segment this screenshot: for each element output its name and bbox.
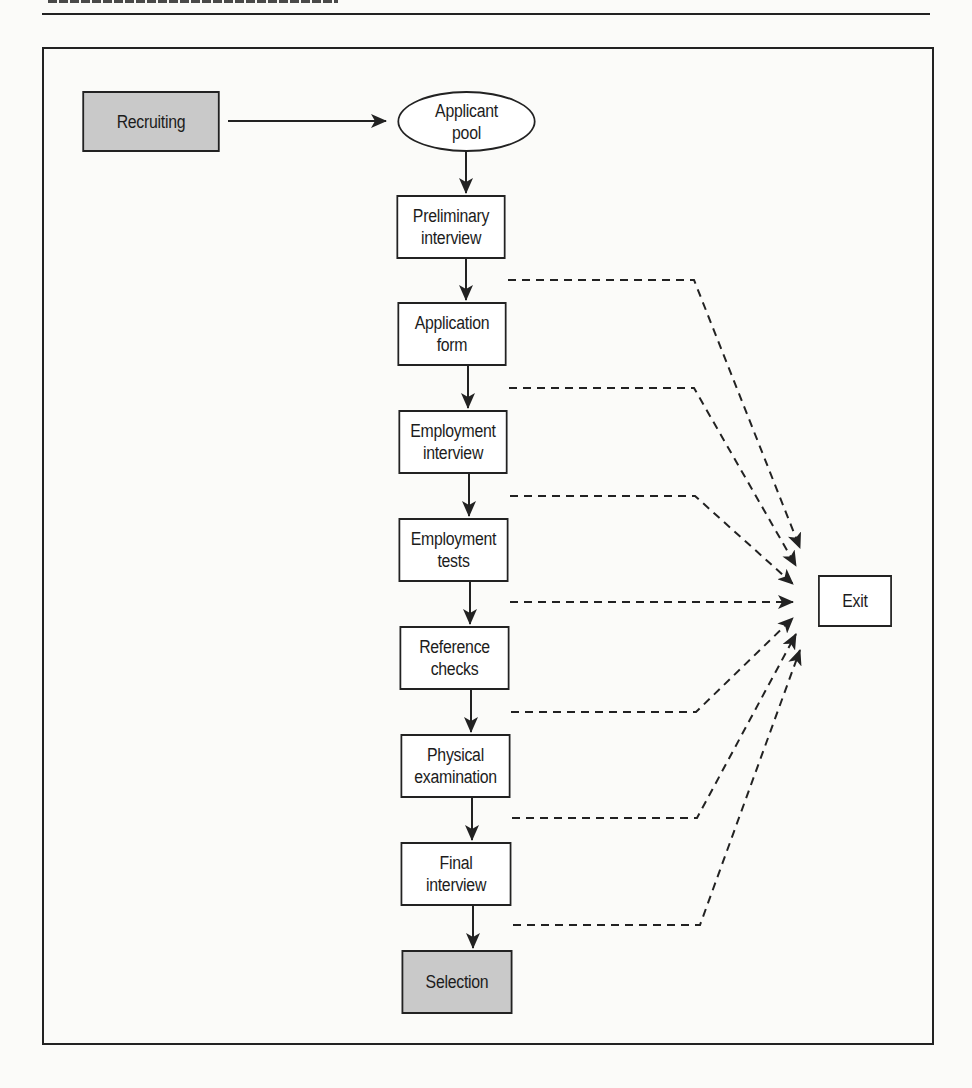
step-preliminary-interview: Preliminary interview bbox=[396, 195, 505, 259]
exit-dashed-arrows bbox=[508, 280, 800, 925]
step-application-form: Application form bbox=[397, 302, 506, 366]
recruiting-label: Recruiting bbox=[117, 111, 186, 133]
selection-label: Selection bbox=[426, 971, 489, 993]
step-label: Preliminary interview bbox=[413, 205, 489, 249]
step-final-interview: Final interview bbox=[401, 842, 512, 906]
step-label: Final interview bbox=[426, 852, 486, 896]
step-reference-checks: Reference checks bbox=[400, 626, 510, 690]
exit-node: Exit bbox=[818, 575, 892, 627]
exit-path-3 bbox=[510, 496, 793, 584]
exit-path-1 bbox=[508, 280, 800, 548]
step-physical-examination: Physical examination bbox=[401, 734, 511, 798]
step-employment-tests: Employment tests bbox=[399, 518, 509, 582]
step-label: Physical examination bbox=[414, 744, 497, 788]
exit-path-2 bbox=[509, 388, 796, 566]
exit-label: Exit bbox=[842, 590, 867, 612]
step-employment-interview: Employment interview bbox=[398, 410, 507, 474]
recruiting-node: Recruiting bbox=[82, 91, 219, 152]
applicant-pool-label: Applicant pool bbox=[435, 100, 498, 144]
selection-node: Selection bbox=[402, 950, 513, 1014]
exit-path-7 bbox=[513, 650, 800, 925]
exit-path-6 bbox=[512, 634, 796, 818]
step-label: Employment tests bbox=[411, 528, 496, 572]
step-label: Employment interview bbox=[410, 420, 495, 464]
applicant-pool-node: Applicant pool bbox=[397, 91, 535, 152]
step-label: Application form bbox=[415, 312, 490, 356]
step-label: Reference checks bbox=[419, 636, 490, 680]
exit-path-5 bbox=[511, 618, 793, 712]
